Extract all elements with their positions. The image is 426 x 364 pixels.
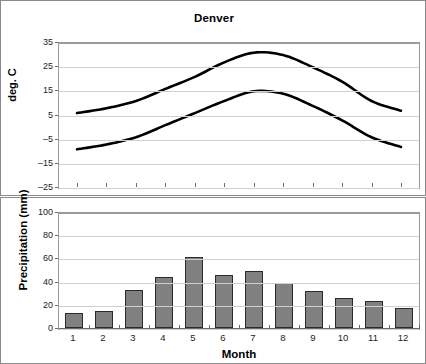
precipitation-gridline [59,306,419,307]
precipitation-bar [305,291,323,328]
month-tick-label: 3 [130,332,135,343]
temperature-x-tickmark [401,183,402,187]
precipitation-chart-panel: Precipitation (mm) 100806040200 12345678… [0,197,426,364]
month-tick-label: 6 [220,332,225,343]
month-tick-label: 7 [250,332,255,343]
temperature-y-axis-label: deg. C [6,50,18,120]
temperature-plot-area [58,42,420,189]
temperature-y-tick: –5 [43,135,53,144]
temperature-y-tick: 35 [43,38,53,47]
precipitation-bar [185,257,203,328]
temperature-gridline [59,67,419,68]
precipitation-y-tick: 40 [43,278,53,287]
temperature-x-tickmark [283,183,284,187]
precipitation-gridline [59,283,419,284]
precipitation-y-tick: 100 [38,208,53,217]
temperature-gridline [59,43,419,44]
temperature-x-tickmark [372,183,373,187]
high-temperature-line [77,52,401,113]
month-tick-label: 8 [280,332,285,343]
temperature-y-tick: –15 [38,159,53,168]
climate-chart-figure: Denver deg. C 3525155–5–15–25 Precipitat… [0,0,426,364]
precipitation-gridline [59,213,419,214]
precipitation-bar [95,311,113,328]
chart-title: Denver [1,12,426,24]
temperature-chart-panel: Denver deg. C 3525155–5–15–25 [0,0,426,196]
month-tick-label: 12 [398,332,409,343]
temperature-gridline [59,116,419,117]
temperature-y-tick: 25 [43,62,53,71]
temperature-gridline [59,164,419,165]
precipitation-y-tick: 0 [48,324,53,333]
precipitation-y-tick: 60 [43,254,53,263]
temperature-y-tick: 15 [43,86,53,95]
temperature-x-tickmark [224,183,225,187]
precipitation-gridline [59,259,419,260]
temperature-gridline [59,140,419,141]
precipitation-bar [155,277,173,328]
temperature-x-tickmark [313,183,314,187]
precipitation-plot-area [58,212,420,330]
temperature-gridline [59,91,419,92]
precipitation-y-tick: 80 [43,231,53,240]
month-tick-label: 11 [368,332,378,343]
precipitation-x-axis-line [59,328,419,329]
month-tick-label: 4 [160,332,165,343]
temperature-x-tickmark [195,183,196,187]
month-tickmark [419,325,420,329]
precipitation-bar [245,271,263,328]
precipitation-y-tick: 20 [43,301,53,310]
temperature-y-tick: –25 [38,183,53,192]
month-tick-label: 9 [310,332,315,343]
precipitation-bar [65,313,83,328]
precipitation-gridline [59,329,419,330]
temperature-x-tickmark [77,183,78,187]
temperature-y-tick-labels: 3525155–5–15–25 [19,42,53,189]
temperature-gridline [59,188,419,189]
precipitation-bar [125,290,143,328]
temperature-x-tickmark [165,183,166,187]
precipitation-gridline [59,236,419,237]
precipitation-bar [395,308,413,328]
precipitation-bar [335,298,353,328]
temperature-x-tickmark [342,183,343,187]
precipitation-y-tick-labels: 100806040200 [19,212,53,330]
temperature-x-tickmark [136,183,137,187]
month-tick-label: 5 [190,332,195,343]
month-tick-label: 2 [100,332,105,343]
x-axis-label: Month [58,348,420,360]
temperature-x-tickmark [106,183,107,187]
month-tick-label: 1 [70,332,75,343]
month-tick-label: 10 [338,332,349,343]
temperature-y-tick: 5 [48,111,53,120]
temperature-x-tickmark [254,183,255,187]
